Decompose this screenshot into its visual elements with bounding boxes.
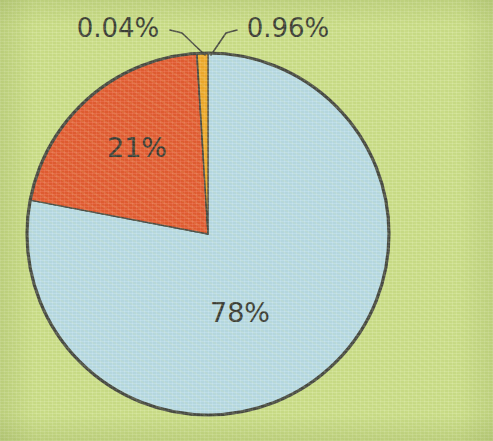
pie-label-0-96: 0.96% <box>247 13 330 43</box>
leader-line-0-04 <box>170 30 205 55</box>
pie-label-21: 21% <box>107 132 167 163</box>
pie-label-0-04: 0.04% <box>77 13 160 43</box>
pie-chart-svg: 78% 21% 0.04% 0.96% <box>0 0 493 441</box>
pie-label-78: 78% <box>210 297 270 328</box>
pie-chart-figure: 78% 21% 0.04% 0.96% <box>0 0 493 441</box>
leader-line-0-96 <box>211 30 237 55</box>
